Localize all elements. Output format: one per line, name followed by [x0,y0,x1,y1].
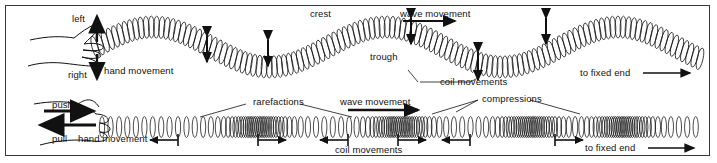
label-right: right [68,70,87,80]
label-wave-movement-longitudinal: wave movement [340,97,410,107]
longitudinal-slinky-coils [99,117,698,138]
label-push: push [52,100,73,110]
transverse-hand-icon [28,23,103,66]
transverse-coil-movement-arrows [207,18,546,80]
label-to-fixed-end-longitudinal: to fixed end [585,143,635,153]
label-crest: crest [310,9,331,19]
label-compressions: compressions [482,94,542,104]
label-coil-movements-longitudinal: coil movements [335,145,402,155]
label-rarefactions: rarefactions [253,97,304,107]
label-left: left [72,14,85,24]
longitudinal-hand-movement-arrows [42,111,96,125]
label-to-fixed-end-transverse: to fixed end [580,68,630,78]
label-hand-movement-longitudinal: hand movement [78,134,147,144]
label-pull: pull [52,134,67,144]
figure-root: left right hand movement crest trough wa… [0,0,717,163]
label-hand-movement-transverse: hand movement [104,66,173,76]
label-wave-movement-transverse: wave movement [400,9,470,19]
label-coil-movements-transverse: coil movements [440,77,507,87]
label-trough: trough [370,52,398,62]
